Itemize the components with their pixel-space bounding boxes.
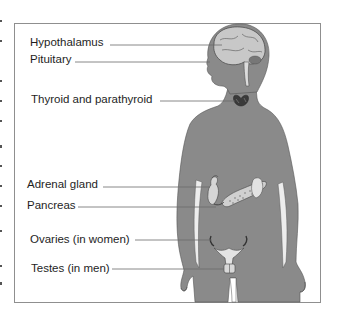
label-hypothalamus: Hypothalamus (30, 36, 104, 49)
label-ovaries: Ovaries (in women) (30, 233, 130, 246)
label-pituitary: Pituitary (30, 53, 72, 66)
label-adrenal-gland: Adrenal gland (27, 178, 98, 191)
label-pancreas: Pancreas (27, 199, 76, 212)
label-testes: Testes (in men) (31, 262, 110, 275)
testes-icon (224, 264, 235, 273)
label-thyroid-and-parathyroid: Thyroid and parathyroid (31, 93, 152, 106)
